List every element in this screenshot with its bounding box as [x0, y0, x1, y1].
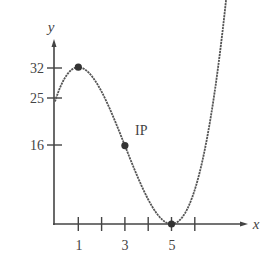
x-axis-label: x [252, 216, 260, 232]
axes [53, 44, 243, 225]
y-tick-label-32: 32 [30, 61, 44, 76]
inflection-point-marker [121, 142, 128, 149]
y-axis-label: y [46, 19, 55, 35]
x-tick-label-3: 3 [122, 238, 129, 253]
y-axis-arrow [52, 39, 57, 47]
x-axis-arrow [240, 222, 248, 227]
y-tick-label-25: 25 [30, 91, 44, 106]
extremum-point-marker [75, 64, 82, 71]
x-tick-label-1: 1 [76, 238, 83, 253]
y-tick-label-16: 16 [30, 138, 44, 153]
x-tick-label-5: 5 [169, 238, 176, 253]
function-graph: y x 32 25 16 1 3 5 IP [0, 0, 280, 265]
inflection-point-label: IP [135, 123, 148, 138]
extremum-point-marker [168, 220, 175, 227]
marked-points [75, 64, 175, 228]
function-curve [55, 0, 232, 224]
